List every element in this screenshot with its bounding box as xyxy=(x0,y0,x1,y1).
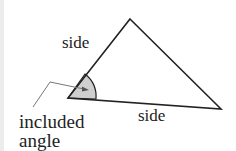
triangle-diagram: side side included angle xyxy=(0,0,236,151)
label-side-left: side xyxy=(62,33,89,52)
label-side-bottom: side xyxy=(138,106,165,125)
label-angle: angle xyxy=(19,130,60,151)
label-included: included xyxy=(19,111,85,132)
